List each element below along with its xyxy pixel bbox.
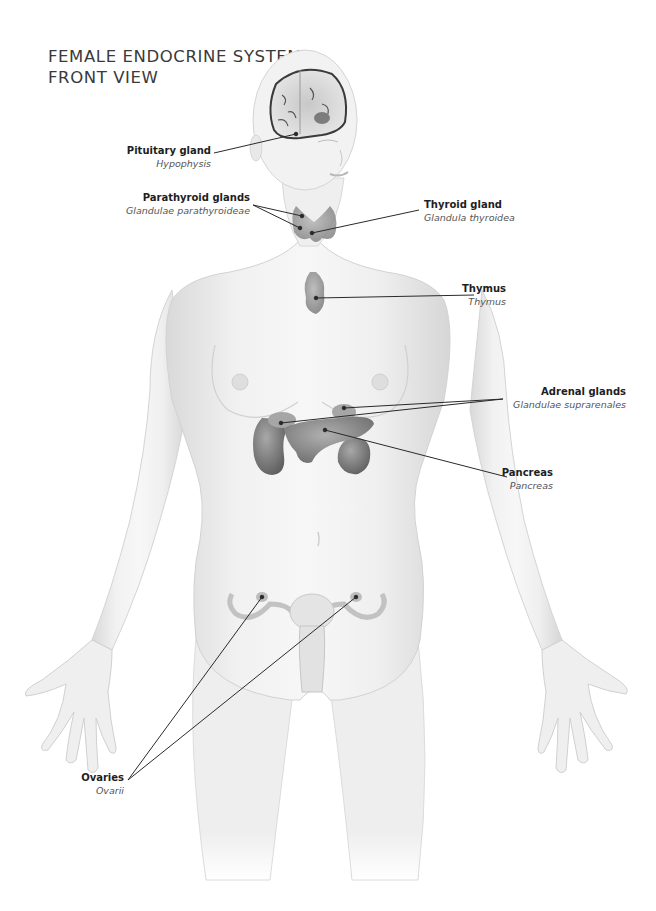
right-arm: [470, 290, 627, 773]
label-name: Adrenal glands: [513, 385, 626, 398]
label-pituitary-gland: Pituitary gland Hypophysis: [127, 144, 211, 170]
label-name: Thymus: [462, 282, 506, 295]
label-name: Pituitary gland: [127, 144, 211, 157]
label-latin: Glandulae suprarenales: [513, 398, 626, 411]
label-name: Ovaries: [81, 771, 124, 784]
label-pancreas: Pancreas Pancreas: [502, 466, 553, 492]
label-ovaries: Ovaries Ovarii: [81, 771, 124, 797]
label-name: Thyroid gland: [424, 198, 515, 211]
label-adrenal-glands: Adrenal glands Glandulae suprarenales: [513, 385, 626, 411]
label-name: Parathyroid glands: [126, 191, 250, 204]
label-latin: Glandula thyroidea: [424, 211, 515, 224]
left-arm: [25, 290, 186, 773]
label-thyroid-gland: Thyroid gland Glandula thyroidea: [424, 198, 515, 224]
thymus-gland: [305, 272, 325, 314]
head: [250, 50, 357, 190]
label-name: Pancreas: [502, 466, 553, 479]
label-latin: Ovarii: [81, 784, 124, 797]
label-thymus: Thymus Thymus: [462, 282, 506, 308]
label-parathyroid-glands: Parathyroid glands Glandulae parathyroid…: [126, 191, 250, 217]
label-latin: Thymus: [462, 295, 506, 308]
label-latin: Glandulae parathyroideae: [126, 204, 250, 217]
label-latin: Hypophysis: [127, 157, 211, 170]
label-latin: Pancreas: [502, 479, 553, 492]
